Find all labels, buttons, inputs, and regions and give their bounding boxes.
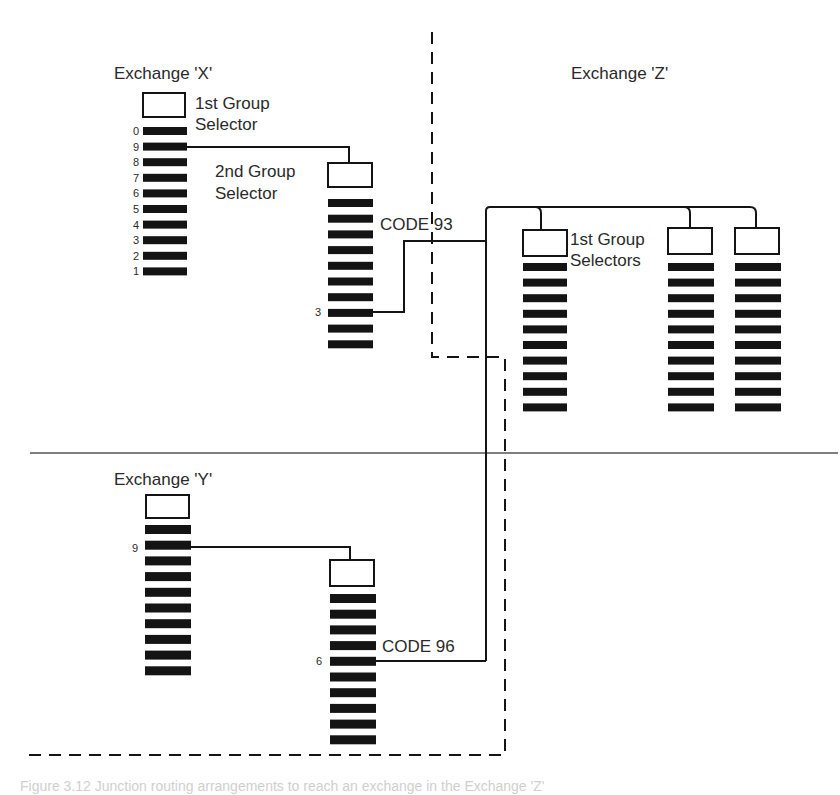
outlet-bar — [735, 372, 781, 380]
outlet-number: 8 — [133, 156, 139, 168]
outlet-bar — [328, 262, 373, 270]
y-first-group-selector-box — [146, 495, 189, 518]
y-outlet-9-to-second-selector — [189, 547, 350, 560]
outlet-bar — [735, 357, 781, 365]
outlet-bar — [523, 341, 567, 349]
figure-caption: Figure 3.12 Junction routing arrangement… — [20, 778, 840, 795]
outlet-bar — [668, 341, 714, 349]
outlet-bar — [328, 278, 373, 286]
x-second-group-selector-box — [328, 163, 372, 187]
outlet-bar — [145, 541, 191, 550]
outlet-bar — [668, 325, 714, 333]
outlet-bar — [328, 340, 373, 348]
outlet-number: 3 — [133, 234, 139, 246]
outlet-bar — [668, 357, 714, 365]
outlet-bar — [735, 294, 781, 302]
outlet-number: 2 — [133, 250, 139, 262]
outlet-bar — [328, 293, 373, 301]
outlet-bar — [328, 325, 373, 333]
y-second-group-selector-box — [330, 560, 374, 586]
outlet-bar — [143, 252, 187, 260]
x-second-outlet-number: 3 — [315, 306, 321, 318]
outlet-bar — [735, 279, 781, 287]
outlet-bar — [735, 403, 781, 411]
z-distribution-bus — [486, 207, 756, 661]
code-93-label: CODE 93 — [380, 215, 453, 234]
x-first-selector-outlets: 0987654321 — [133, 125, 187, 277]
outlet-bar — [668, 294, 714, 302]
x-first-selector-label-2: Selector — [195, 115, 258, 134]
x-second-selector-outlets — [328, 199, 373, 348]
z-selectors-label-1: 1st Group — [570, 230, 645, 249]
outlet-bar — [145, 651, 191, 660]
outlet-bar — [145, 525, 191, 534]
outlet-number: 9 — [133, 141, 139, 153]
outlet-bar — [330, 688, 376, 697]
outlet-bar — [523, 403, 567, 411]
outlet-bar — [145, 588, 191, 597]
outlet-bar — [330, 673, 376, 682]
outlet-bar — [143, 127, 187, 135]
outlet-bar — [330, 735, 376, 744]
outlet-number: 0 — [133, 125, 139, 137]
x-second-selector-label-1: 2nd Group — [215, 162, 295, 181]
outlet-bar — [735, 388, 781, 396]
outlet-bar — [330, 641, 376, 650]
outlet-bar — [143, 267, 187, 275]
z-selectors-outlets — [523, 263, 781, 411]
outlet-bar — [143, 189, 187, 197]
outlet-bar — [523, 263, 567, 271]
x-first-group-selector-box — [143, 93, 185, 117]
outlet-bar — [735, 325, 781, 333]
outlet-bar — [328, 230, 373, 238]
outlet-bar — [330, 594, 376, 603]
z-selector-2-box — [668, 228, 712, 254]
outlet-bar — [145, 572, 191, 581]
z-selector-3-box — [735, 228, 779, 254]
y-second-outlet-number: 6 — [316, 655, 322, 667]
outlet-bar — [143, 143, 187, 151]
outlet-bar — [143, 158, 187, 166]
outlet-bar — [668, 263, 714, 271]
outlet-bar — [330, 610, 376, 619]
x-outlet-9-to-second-selector — [186, 147, 349, 163]
z-selectors-label-2: Selectors — [570, 251, 641, 270]
outlet-number: 4 — [133, 219, 139, 231]
exchange-z-title: Exchange 'Z' — [571, 64, 668, 83]
outlet-bar — [523, 294, 567, 302]
outlet-bar — [328, 199, 373, 207]
outlet-number: 6 — [133, 187, 139, 199]
outlet-bar — [145, 556, 191, 565]
outlet-bar — [143, 236, 187, 244]
outlet-bar — [523, 310, 567, 318]
y-first-selector-outlets — [145, 525, 191, 675]
outlet-number: 5 — [133, 203, 139, 215]
outlet-bar — [735, 263, 781, 271]
outlet-number: 1 — [133, 265, 139, 277]
x-second-selector-label-2: Selector — [215, 184, 278, 203]
z-selector-1-box — [523, 230, 567, 256]
exchange-x-title: Exchange 'X' — [114, 64, 212, 83]
x-first-selector-label-1: 1st Group — [195, 94, 270, 113]
outlet-bar — [143, 221, 187, 229]
outlet-bar — [735, 310, 781, 318]
outlet-bar — [668, 279, 714, 287]
outlet-bar — [668, 310, 714, 318]
outlet-bar — [668, 372, 714, 380]
outlet-bar — [523, 325, 567, 333]
outlet-bar — [145, 604, 191, 613]
exchange-routing-diagram: Exchange 'X' Exchange 'Y' Exchange 'Z' 1… — [0, 0, 840, 795]
exchange-y-title: Exchange 'Y' — [114, 470, 212, 489]
outlet-bar — [145, 666, 191, 675]
outlet-bar — [523, 357, 567, 365]
outlet-bar — [523, 372, 567, 380]
outlet-bar — [145, 619, 191, 628]
outlet-bar — [328, 246, 373, 254]
y-first-outlet-number: 9 — [132, 542, 138, 554]
code-93-junction — [373, 241, 486, 312]
y-second-selector-outlets — [330, 594, 376, 744]
outlet-bar — [328, 215, 373, 223]
outlet-bar — [328, 309, 373, 317]
outlet-bar — [330, 657, 376, 666]
outlet-bar — [523, 388, 567, 396]
